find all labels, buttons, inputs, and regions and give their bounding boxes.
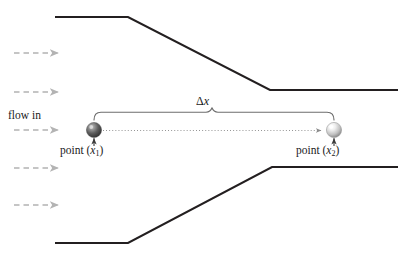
delta-x-brace [94, 108, 334, 120]
point-1-label: point (x1) [60, 144, 103, 158]
point-1-suffix: ) [99, 144, 103, 156]
delta-symbol: Δ [196, 94, 204, 108]
figure-canvas: flow in Δx point (x1) point (x2) [0, 0, 398, 260]
point-1-prefix: point ( [60, 144, 90, 156]
point-marker-1 [86, 122, 102, 140]
point-2-prefix: point ( [296, 144, 326, 156]
flow-in-label: flow in [8, 109, 41, 121]
point-2-label: point (x2) [296, 144, 339, 158]
pipe-bottom-wall [55, 167, 398, 243]
point-marker-2 [326, 122, 341, 137]
flow-arrow-group [14, 53, 58, 205]
point-2-suffix: ) [335, 144, 339, 156]
flow-diagram [0, 0, 398, 260]
delta-x-label: Δx [196, 94, 209, 109]
delta-x-variable: x [204, 94, 209, 108]
pipe-top-wall [55, 17, 398, 90]
